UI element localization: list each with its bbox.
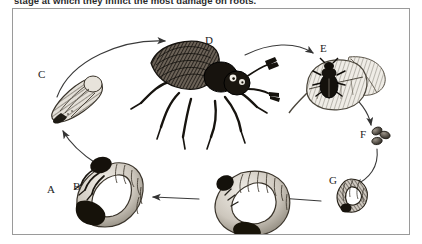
arrow-d-to-e [245,45,313,55]
stage-d-adult-beetle [131,41,280,149]
stage-label-c: C [38,69,45,80]
stage-f-eggs [371,126,391,146]
arrow-a-to-b [153,197,199,199]
stage-c-pupa [52,76,103,124]
stage-label-d: D [205,35,213,46]
stage-label-g: G [329,175,337,186]
stage-label-f: F [360,129,366,140]
arrow-f-to-g [355,149,377,185]
figure-page: stage at which they inflict the most dam… [0,0,422,244]
stage-g-young-larva [337,179,367,213]
stage-b-mature-grub [75,154,143,227]
stage-label-e: E [320,43,327,54]
stage-e-beetle-on-leaf [289,57,385,113]
figure-box: A B C D E F G [12,8,410,235]
stage-a-grub [214,171,290,234]
stage-label-a: A [47,184,55,195]
arrow-b-to-c [63,131,97,164]
life-cycle-diagram: A B C D E F G [13,9,409,234]
stage-label-b: B [73,181,80,192]
caption-text: stage at which they inflict the most dam… [14,0,414,7]
